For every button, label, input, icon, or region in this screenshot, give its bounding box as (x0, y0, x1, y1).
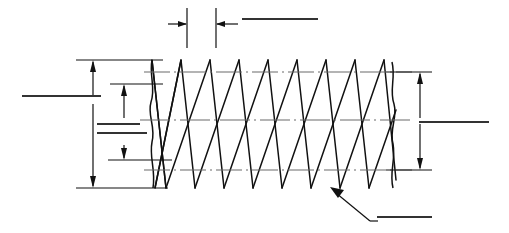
left-break-line (150, 60, 154, 188)
thread-profile-vees (152, 60, 181, 188)
minor-dia-arrow-top (417, 72, 423, 84)
root-leader-arrow-head (330, 187, 344, 198)
pitch-arrow-head-left (178, 21, 187, 27)
major-dia-arrow-top (90, 60, 96, 72)
pitch-arrow-head-right (216, 21, 225, 27)
thread-depth-arrow-bottom (121, 148, 127, 160)
major-dia-arrow-bottom (90, 176, 96, 188)
technical-drawing-canvas (0, 0, 509, 233)
label-rule-group (22, 19, 489, 217)
thread-body-group (140, 60, 414, 188)
thread-depth-arrow-top (121, 84, 127, 96)
thread-root-leader-group (330, 187, 378, 221)
root-leader-line (336, 193, 370, 221)
thread-drawing-svg (0, 0, 509, 233)
thread-flanks-ascending (155, 60, 396, 188)
pitch-dimension-group (168, 8, 238, 48)
minor-dia-arrow-bottom (417, 158, 423, 170)
